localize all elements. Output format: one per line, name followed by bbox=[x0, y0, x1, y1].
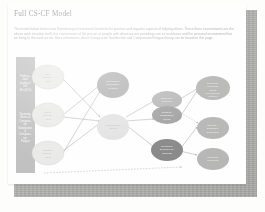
page-title: Full CS-CF Model bbox=[14, 10, 72, 18]
cs-cf-model-diagram: Profess- ional Quality of Life (ProQOL) … bbox=[14, 55, 240, 179]
burnout-label: Burnout / Emotional Exhaustion bbox=[207, 124, 220, 134]
intro-paragraph: The model below shows how threatening en… bbox=[14, 27, 236, 41]
document-page: Full CS-CF Model The model below shows h… bbox=[8, 4, 246, 184]
compassion-satisfaction-node: Compassion Satisfaction (Positive) bbox=[97, 72, 129, 98]
traumatic-memories-label: Traumatic Memories bbox=[207, 156, 219, 162]
panel-top-label: Profess- ional Quality of Life (ProQOL) bbox=[19, 74, 31, 92]
personal-environment-node: Personal Environ- ment bbox=[32, 141, 64, 165]
traumatic-memories-node: Traumatic Memories bbox=[197, 148, 229, 170]
work-environment-node: Work Environ- ment bbox=[32, 65, 64, 89]
residual-compassion-stress-node: Residual Compassion Stress bbox=[152, 106, 182, 124]
secondary-traumatic-stress-node: Secondary Traumatic Stress (Compassion F… bbox=[196, 76, 230, 100]
compassion-stress-node: Compassion Stress bbox=[97, 114, 129, 140]
prolonged-exposure-node: Prolonged Exposure To Suffering bbox=[151, 139, 183, 161]
environment-node-group: Work Environ- ment Client Environ- ment bbox=[32, 65, 64, 165]
burnout-node: Burnout / Emotional Exhaustion bbox=[197, 117, 229, 139]
scanned-page-scene: Full CS-CF Model The model below shows h… bbox=[0, 0, 265, 212]
client-environment-node: Client Environ- ment bbox=[32, 103, 64, 127]
compassion-satisfaction-label: Compassion Satisfaction (Positive) bbox=[106, 80, 121, 90]
secondary-exposure-label: Secondary Exposure bbox=[161, 97, 174, 103]
